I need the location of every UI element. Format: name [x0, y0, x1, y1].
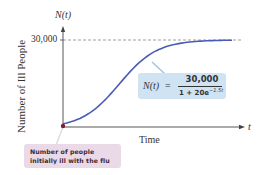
x-axis-label: Time [139, 134, 160, 145]
formula-lhs: N(t) [143, 80, 159, 91]
y-axis-label: Number of Ill People [15, 40, 27, 133]
formula-numerator: 30,000 [182, 74, 222, 84]
initial-value-callout: Number of people initially ill with the … [24, 144, 121, 168]
formula-box: N(t) = 30,000 1 + 20e−1.5t [138, 73, 226, 99]
formula-denominator: 1 + 20e−1.5t [179, 87, 223, 97]
callout-line-1: Number of people [30, 147, 110, 156]
y-axis-arrow-icon [61, 26, 65, 32]
x-axis-symbol: t [248, 121, 251, 132]
formula-equals: = [165, 80, 171, 91]
y-tick-label: 30,000 [31, 34, 57, 44]
callout-line-2: initially ill with the flu [30, 156, 110, 165]
x-axis-arrow-icon [239, 125, 245, 129]
initial-point-marker [61, 124, 65, 128]
formula-denominator-base: 1 + 20e [179, 89, 209, 97]
logistic-growth-chart: N(t) t 30,000 Number of Ill People Time … [0, 0, 258, 175]
callout-leader-line [56, 127, 63, 145]
y-axis-symbol: N(t) [55, 9, 71, 20]
formula-exponent: −1.5t [209, 87, 223, 93]
